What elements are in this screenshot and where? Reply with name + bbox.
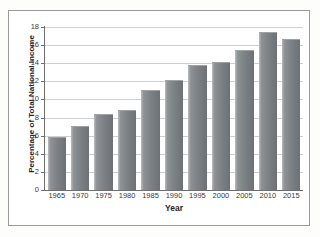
bar [259,32,277,190]
bar [212,62,230,190]
y-axis-tick-label: 18 [23,23,39,31]
y-axis-tick-mark [41,45,44,46]
y-axis-tick-labels: 024681012141618 [22,27,39,190]
x-axis-tick-label: 1990 [166,192,183,200]
x-axis-title: Year [45,204,303,213]
y-axis-tick-mark [41,136,44,137]
x-axis-tick-label: 1995 [189,192,206,200]
y-axis-tick-label: 14 [23,59,39,67]
bar [118,110,136,190]
y-axis-tick-mark [41,27,44,28]
x-axis-tick-label: 1965 [48,192,65,200]
x-axis-tick-label: 2010 [259,192,276,200]
plot-area [45,27,303,190]
y-axis-tick-mark [41,81,44,82]
y-axis-tick-label: 12 [23,78,39,86]
y-axis-tick-label: 8 [23,114,39,122]
y-axis-tick-mark [41,190,44,191]
y-axis-tick-label: 2 [23,168,39,176]
gridline [45,27,303,28]
x-axis-tick-label: 2015 [283,192,300,200]
y-axis-line [44,26,45,191]
y-axis-tick-mark [41,63,44,64]
y-axis-title-container: Percentage of Total National Income [20,0,21,237]
y-axis-tick-mark [41,154,44,155]
x-axis-tick-label: 1975 [95,192,112,200]
y-axis-tick-label: 4 [23,150,39,158]
chart-page: Percentage of Total National Income 0246… [0,0,320,237]
bar [282,39,300,190]
x-axis-tick-label: 1970 [72,192,89,200]
bar [141,90,159,190]
y-axis-tick-mark [41,172,44,173]
bar [188,65,206,190]
y-axis-tick-mark [41,118,44,119]
x-axis-tick-label: 2000 [213,192,230,200]
y-axis-tick-label: 6 [23,132,39,140]
bar [235,50,253,190]
x-axis-tick-label: 1985 [142,192,159,200]
y-axis-tick-mark [41,99,44,100]
y-axis-tick-label: 0 [23,186,39,194]
y-axis-tick-label: 10 [23,96,39,104]
x-axis-tick-label: 1980 [119,192,136,200]
bar [71,126,89,190]
bar [165,80,183,190]
x-axis-tick-label: 2005 [236,192,253,200]
bar [94,114,112,190]
bar [48,137,66,190]
y-axis-tick-label: 16 [23,41,39,49]
